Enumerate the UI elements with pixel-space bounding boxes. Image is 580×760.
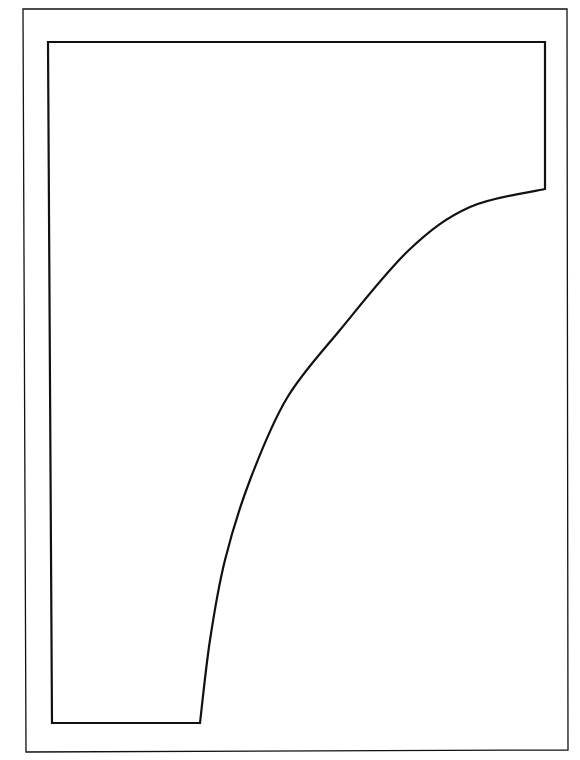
template-outline — [48, 42, 545, 723]
diagram-canvas — [0, 0, 580, 760]
outer-frame — [23, 9, 568, 752]
